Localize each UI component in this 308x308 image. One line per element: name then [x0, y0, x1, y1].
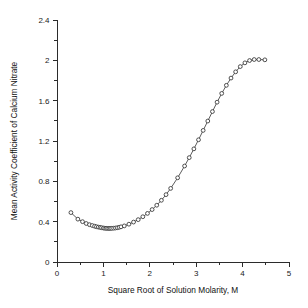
data-point-marker: [215, 100, 219, 104]
data-point-marker: [257, 58, 261, 62]
data-point-marker: [197, 138, 201, 142]
data-point-marker: [229, 76, 233, 80]
x-tick-label: 2: [148, 269, 153, 278]
data-point-marker: [263, 58, 267, 62]
data-point-marker: [243, 61, 247, 65]
y-tick-label: 0: [45, 258, 50, 267]
data-point-marker: [164, 193, 168, 197]
data-point-marker: [248, 59, 252, 63]
data-point-marker: [192, 147, 196, 151]
chart-figure: 00.40.81.21.622.4 012345 Square Root of …: [0, 0, 308, 308]
series-marker-group: [69, 58, 267, 231]
y-tick-label: 0.8: [38, 177, 50, 186]
y-tick-label: 2: [45, 56, 50, 65]
data-point-marker: [81, 220, 85, 224]
data-point-marker: [238, 65, 242, 69]
data-point-marker: [187, 156, 191, 160]
data-point-marker: [183, 164, 187, 168]
x-tick-label: 4: [240, 269, 245, 278]
y-tick-label: 0.4: [38, 218, 50, 227]
y-axis-title: Mean Activity Coefficient of Calcium Nit…: [9, 61, 19, 220]
data-point-marker: [211, 110, 215, 114]
data-point-marker: [122, 224, 126, 228]
x-tick-label: 5: [287, 269, 292, 278]
y-tick-label-group: 00.40.81.21.622.4: [38, 16, 50, 267]
y-tick-label: 1.2: [38, 137, 50, 146]
data-point-marker: [206, 119, 210, 123]
data-point-marker: [160, 198, 164, 202]
major-tick-group: [53, 20, 290, 267]
data-point-marker: [150, 208, 154, 212]
y-tick-label: 1.6: [38, 97, 50, 106]
data-point-marker: [136, 218, 140, 222]
x-tick-label-group: 012345: [55, 269, 292, 278]
data-point-marker: [146, 212, 150, 216]
data-point-marker: [169, 186, 173, 190]
data-point-marker: [201, 129, 205, 133]
data-point-marker: [127, 222, 131, 226]
series-line-calcium-nitrate: [71, 60, 265, 229]
data-point-marker: [252, 58, 256, 62]
data-point-marker: [69, 211, 73, 215]
data-point-marker: [141, 215, 145, 219]
data-point-marker: [224, 83, 228, 87]
x-tick-label: 3: [194, 269, 199, 278]
data-point-marker: [176, 176, 180, 180]
data-point-marker: [76, 217, 80, 221]
y-tick-label: 2.4: [38, 16, 50, 25]
data-point-marker: [155, 203, 159, 207]
data-point-marker: [220, 92, 224, 96]
x-tick-label: 1: [101, 269, 106, 278]
x-tick-label: 0: [55, 269, 60, 278]
data-point-marker: [132, 220, 136, 224]
x-axis-title: Square Root of Solution Molarity, M: [108, 285, 238, 295]
data-point-marker: [234, 70, 238, 74]
chart-plot-area: 00.40.81.21.622.4 012345 Square Root of …: [0, 0, 308, 308]
